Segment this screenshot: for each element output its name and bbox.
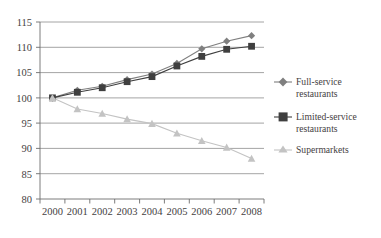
legend-label-full-service-line1: Full-service <box>296 76 342 87</box>
y-axis-labels: 115 110 105 100 95 90 85 80 <box>16 17 32 205</box>
y-axis-label-85: 85 <box>22 169 33 180</box>
data-point-diamond <box>248 32 255 39</box>
chart-container: 115 110 105 100 95 90 85 80 2000 2001 20… <box>0 0 381 238</box>
data-point-diamond <box>198 45 205 52</box>
y-axis-label-115: 115 <box>17 17 32 28</box>
data-point-square <box>124 78 131 85</box>
line-chart: 115 110 105 100 95 90 85 80 2000 2001 20… <box>0 0 381 238</box>
data-point-square <box>74 89 81 96</box>
x-axis-label-2000: 2000 <box>42 206 63 217</box>
square-icon <box>279 112 288 121</box>
x-axis-label-2004: 2004 <box>142 206 164 217</box>
legend: Full-service restaurants Limited-service… <box>274 76 357 155</box>
legend-item-supermarkets[interactable]: Supermarkets <box>274 144 349 155</box>
diamond-icon <box>279 78 288 87</box>
gridlines <box>40 22 264 174</box>
data-point-triangle <box>248 155 256 162</box>
x-axis-label-2007: 2007 <box>216 206 237 217</box>
data-point-diamond <box>223 38 230 45</box>
data-point-square <box>248 43 255 50</box>
y-axis-label-100: 100 <box>16 93 32 104</box>
data-point-triangle <box>173 129 181 136</box>
legend-label-limited-service-line2: restaurants <box>296 123 338 134</box>
data-point-square <box>99 84 106 91</box>
x-axis-ticks <box>40 199 264 204</box>
y-axis-label-95: 95 <box>22 118 33 129</box>
data-point-square <box>173 63 180 70</box>
y-axis-label-90: 90 <box>22 143 33 154</box>
x-axis-labels: 2000 2001 2002 2003 2004 2005 2006 2007 … <box>42 206 262 217</box>
y-axis-ticks <box>36 22 40 199</box>
legend-item-limited-service[interactable]: Limited-service restaurants <box>274 111 357 134</box>
legend-label-supermarkets: Supermarkets <box>296 144 349 155</box>
y-axis-label-80: 80 <box>22 194 33 205</box>
legend-label-full-service-line2: restaurants <box>296 88 338 99</box>
x-axis-label-2006: 2006 <box>191 206 212 217</box>
x-axis-label-2001: 2001 <box>67 206 88 217</box>
y-axis-label-105: 105 <box>16 67 32 78</box>
data-series-layer <box>49 32 256 162</box>
x-axis-label-2002: 2002 <box>92 206 113 217</box>
series-supermarkets <box>49 94 256 162</box>
triangle-icon <box>278 145 287 152</box>
y-axis-label-110: 110 <box>17 42 32 53</box>
data-point-square <box>223 46 230 53</box>
series-line <box>52 36 251 98</box>
legend-item-full-service[interactable]: Full-service restaurants <box>274 76 342 99</box>
data-point-triangle <box>74 105 82 112</box>
x-axis-label-2005: 2005 <box>166 206 187 217</box>
series-line <box>52 98 251 159</box>
x-axis-label-2003: 2003 <box>117 206 138 217</box>
data-point-square <box>149 73 156 80</box>
x-axis-label-2008: 2008 <box>241 206 262 217</box>
data-point-square <box>198 53 205 60</box>
legend-label-limited-service-line1: Limited-service <box>296 111 357 122</box>
